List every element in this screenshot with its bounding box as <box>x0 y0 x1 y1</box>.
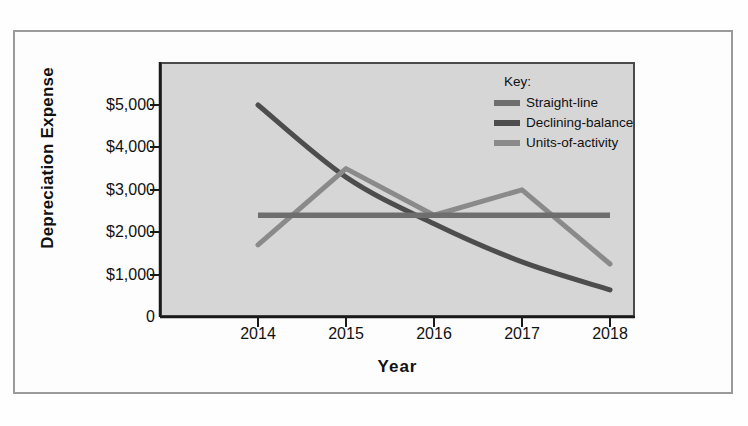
legend-swatch-straight-line <box>494 100 520 106</box>
legend-label-units-of-activity: Units-of-activity <box>526 135 618 150</box>
legend-swatch-units-of-activity <box>494 140 520 146</box>
chart-legend: Key: Straight-line Declining-balance Uni… <box>494 74 644 153</box>
chart-plot-svg <box>0 0 748 426</box>
legend-item-straight-line: Straight-line <box>494 93 644 112</box>
legend-label-declining-balance: Declining-balance <box>526 115 633 130</box>
legend-swatch-declining-balance <box>494 120 520 126</box>
legend-item-declining-balance: Declining-balance <box>494 113 644 132</box>
chart-figure: $5,000 $4,000 $3,000 $2,000 $1,000 0 201… <box>0 0 748 426</box>
legend-item-units-of-activity: Units-of-activity <box>494 133 644 152</box>
legend-label-straight-line: Straight-line <box>526 95 598 110</box>
legend-title: Key: <box>494 74 644 89</box>
